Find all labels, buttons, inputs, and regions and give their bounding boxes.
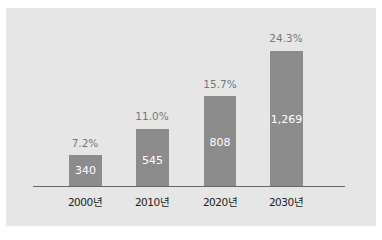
bar-value: 340 — [69, 164, 102, 177]
x-tick-label: 2020년 — [190, 194, 250, 209]
percent-label: 24.3% — [256, 32, 316, 44]
bar-2020: 808 — [204, 96, 236, 186]
bar-value: 1,269 — [270, 113, 303, 126]
percent-label: 15.7% — [190, 78, 250, 90]
x-tick-label: 2010년 — [122, 194, 182, 209]
bar-2000: 340 — [69, 155, 102, 186]
x-tick-label: 2030년 — [256, 194, 316, 209]
bar-2010: 545 — [136, 129, 169, 186]
x-tick-label: 2000년 — [55, 194, 115, 209]
bar-2030: 1,269 — [270, 51, 303, 186]
x-axis-line — [33, 186, 345, 187]
percent-label: 11.0% — [122, 110, 182, 122]
bar-value: 808 — [204, 136, 236, 149]
bar-value: 545 — [136, 154, 169, 167]
percent-label: 7.2% — [55, 137, 115, 149]
